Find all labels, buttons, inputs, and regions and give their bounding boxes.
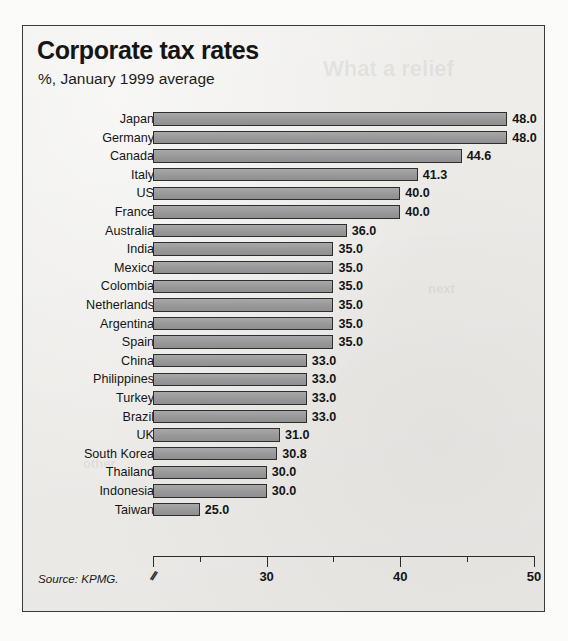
x-axis-tick-label: 40 — [393, 569, 407, 584]
category-label: Brazil — [0, 408, 154, 427]
chart-row: Spain35.0 — [23, 333, 546, 352]
axis-break-icon: // — [149, 568, 158, 583]
category-label: Thailand — [0, 463, 154, 482]
bar — [153, 354, 307, 367]
chart-row: France40.0 — [23, 203, 546, 222]
bar — [153, 484, 267, 497]
category-label: Germany — [0, 129, 154, 148]
bar — [153, 280, 333, 293]
category-label: UK — [0, 426, 154, 445]
category-label: Australia — [0, 222, 154, 241]
chart-row: Australia36.0 — [23, 222, 546, 241]
x-axis-line — [153, 556, 534, 557]
chart-row: China33.0 — [23, 352, 546, 371]
bar-value-label: 33.0 — [312, 352, 337, 371]
bar-value-label: 40.0 — [405, 203, 430, 222]
bar — [153, 205, 400, 218]
bar — [153, 428, 280, 441]
bar — [153, 335, 333, 348]
x-axis-tick — [467, 556, 468, 562]
bar — [153, 149, 462, 162]
chart-row: Thailand30.0 — [23, 463, 546, 482]
plot-area: // Japan48.0Germany48.0Canada44.6Italy41… — [23, 108, 546, 568]
chart-row: Germany48.0 — [23, 129, 546, 148]
bar-value-label: 33.0 — [312, 389, 337, 408]
category-label: Taiwan — [0, 501, 154, 520]
chart-row: Taiwan25.0 — [23, 501, 546, 520]
category-label: Netherlands — [0, 296, 154, 315]
category-label: Canada — [0, 147, 154, 166]
x-axis-tick — [534, 556, 535, 567]
bar-value-label: 30.8 — [282, 445, 307, 464]
x-axis-tick — [333, 556, 334, 562]
category-label: China — [0, 352, 154, 371]
bar — [153, 317, 333, 330]
bar — [153, 298, 333, 311]
bar — [153, 373, 307, 386]
category-label: Indonesia — [0, 482, 154, 501]
chart-row: Turkey33.0 — [23, 389, 546, 408]
chart-row: US40.0 — [23, 184, 546, 203]
bar-value-label: 35.0 — [338, 277, 363, 296]
bar-value-label: 41.3 — [423, 166, 448, 185]
figure-frame: What a relief next other Corporate tax r… — [22, 25, 545, 612]
category-label: Mexico — [0, 259, 154, 278]
bar — [153, 466, 267, 479]
chart-row: Netherlands35.0 — [23, 296, 546, 315]
bar-value-label: 35.0 — [338, 240, 363, 259]
bar — [153, 187, 400, 200]
chart-row: Japan48.0 — [23, 110, 546, 129]
bar — [153, 410, 307, 423]
chart-row: UK31.0 — [23, 426, 546, 445]
category-label: Italy — [0, 166, 154, 185]
category-label: US — [0, 184, 154, 203]
bar-value-label: 30.0 — [272, 463, 297, 482]
x-axis-tick-label: 50 — [527, 569, 541, 584]
category-label: India — [0, 240, 154, 259]
bar — [153, 224, 347, 237]
x-axis-tick — [267, 556, 268, 567]
category-label: Japan — [0, 110, 154, 129]
category-label: Philippines — [0, 370, 154, 389]
bar-value-label: 36.0 — [352, 222, 377, 241]
x-axis-tick — [400, 556, 401, 567]
category-label: South Korea — [0, 445, 154, 464]
bar-value-label: 48.0 — [512, 129, 537, 148]
bar — [153, 261, 333, 274]
chart-title: Corporate tax rates — [37, 36, 259, 65]
scanned-page: What a relief next other Corporate tax r… — [0, 0, 568, 641]
category-label: Argentina — [0, 315, 154, 334]
bar — [153, 503, 200, 516]
chart-row: Argentina35.0 — [23, 315, 546, 334]
category-label: Turkey — [0, 389, 154, 408]
x-axis-tick-label: 30 — [259, 569, 273, 584]
bar-value-label: 31.0 — [285, 426, 310, 445]
chart-subtitle: %, January 1999 average — [38, 70, 215, 88]
chart-row: Brazil33.0 — [23, 408, 546, 427]
x-axis-tick — [200, 556, 201, 562]
source-note: Source: KPMG. — [38, 572, 119, 585]
bar-value-label: 33.0 — [312, 370, 337, 389]
bar — [153, 242, 333, 255]
category-label: France — [0, 203, 154, 222]
chart-row: Indonesia30.0 — [23, 482, 546, 501]
category-label: Spain — [0, 333, 154, 352]
bar-value-label: 35.0 — [338, 333, 363, 352]
bar-value-label: 35.0 — [338, 296, 363, 315]
category-label: Colombia — [0, 277, 154, 296]
chart-row: Philippines33.0 — [23, 370, 546, 389]
chart-row: Mexico35.0 — [23, 259, 546, 278]
bar — [153, 131, 507, 144]
bar-value-label: 48.0 — [512, 110, 537, 129]
bar-value-label: 40.0 — [405, 184, 430, 203]
bleed-through-text-top: What a relief — [323, 56, 454, 82]
bar-value-label: 33.0 — [312, 408, 337, 427]
bar — [153, 391, 307, 404]
bar — [153, 447, 277, 460]
bar-value-label: 25.0 — [205, 501, 230, 520]
chart-row: Italy41.3 — [23, 166, 546, 185]
bar-value-label: 35.0 — [338, 315, 363, 334]
chart-row: Canada44.6 — [23, 147, 546, 166]
chart-row: South Korea30.8 — [23, 445, 546, 464]
bar-value-label: 30.0 — [272, 482, 297, 501]
